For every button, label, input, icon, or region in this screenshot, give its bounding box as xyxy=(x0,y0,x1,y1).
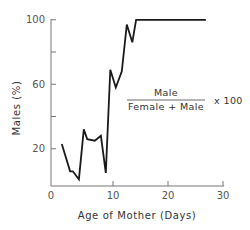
x-axis-ticks: 0102030 xyxy=(48,181,230,201)
y-tick-label: 60 xyxy=(32,79,45,90)
formula-denominator: Female + Male xyxy=(128,101,204,112)
x-tick-label: 10 xyxy=(107,190,120,201)
y-tick-label: 100 xyxy=(26,14,45,25)
x-tick-label: 0 xyxy=(48,190,54,201)
y-axis-title: Males (%) xyxy=(11,81,22,136)
x-tick-label: 20 xyxy=(162,190,175,201)
line-chart: 2060100 0102030 Males (%) Age of Mother … xyxy=(0,0,250,230)
x-tick-label: 30 xyxy=(217,190,230,201)
data-line-males-percent xyxy=(62,20,206,180)
x-axis-title: Age of Mother (Days) xyxy=(78,210,197,221)
formula-multiplier: x 100 xyxy=(214,95,243,106)
formula-numerator: Male xyxy=(154,87,178,98)
y-tick-label: 20 xyxy=(32,143,45,154)
formula-annotation: Male Female + Male x 100 xyxy=(127,87,243,112)
